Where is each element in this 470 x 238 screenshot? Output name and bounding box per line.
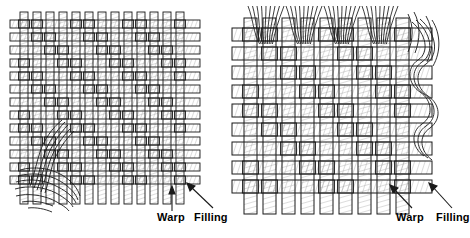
right-weave-body bbox=[232, 18, 432, 214]
left-filling-label: Filling bbox=[194, 211, 228, 223]
left-pointer-filling bbox=[187, 183, 213, 208]
fine-twill-weave-drawing bbox=[0, 0, 230, 238]
right-panel: Warp Filling bbox=[230, 0, 460, 238]
left-warp-label: Warp bbox=[157, 211, 185, 223]
right-filling-label: Filling bbox=[436, 211, 470, 223]
left-panel: Warp Filling bbox=[0, 0, 230, 238]
right-pointer-filling bbox=[429, 183, 452, 208]
right-warp-label: Warp bbox=[396, 211, 424, 223]
coarse-twill-weave-drawing bbox=[230, 0, 460, 238]
